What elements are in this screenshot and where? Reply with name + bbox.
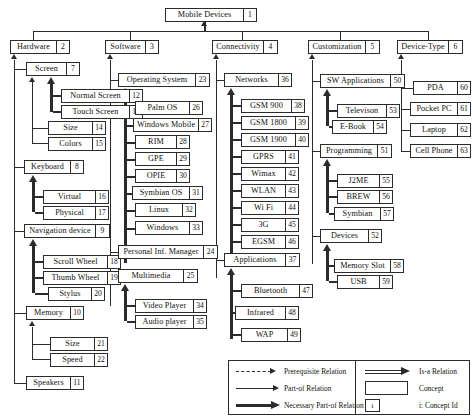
node-id: 58	[390, 260, 403, 272]
node-egsm[interactable]: EGSM 46	[241, 235, 299, 249]
node-infrared[interactable]: Infrared 48	[235, 306, 299, 320]
node-televison[interactable]: Televison 53	[337, 104, 400, 118]
spine-operating-system	[124, 95, 127, 263]
node-memory-size[interactable]: Size 21	[50, 337, 108, 351]
node-memory-speed[interactable]: Speed 22	[50, 353, 108, 367]
node-windows-mobile[interactable]: Windows Mobile 27	[133, 118, 212, 132]
node-pocket-pc[interactable]: Pocket PC 61	[410, 102, 471, 116]
stub-televison	[329, 110, 337, 112]
node-symbian-os[interactable]: Symbian OS 31	[132, 186, 203, 200]
node-screen[interactable]: Screen 7	[26, 62, 80, 76]
node-stylus[interactable]: Stylus 20	[48, 287, 105, 301]
arrowhead-keyboard	[29, 175, 37, 182]
node-memory[interactable]: Memory 10	[26, 306, 84, 320]
node-hardware[interactable]: Hardware 2	[10, 40, 70, 54]
node-label: Speakers	[27, 377, 70, 389]
node-label: GSM 1900	[242, 134, 295, 146]
node-laptop[interactable]: Laptop 62	[410, 123, 471, 137]
node-id: 56	[379, 191, 392, 203]
node-personal-inf-manager[interactable]: Personal Inf. Manager 24	[118, 245, 218, 259]
node-cell-phone[interactable]: Cell Phone 63	[410, 144, 471, 158]
spine-screen-thin	[32, 82, 33, 143]
node-physical[interactable]: Physical 17	[43, 206, 109, 220]
node-scroll-wheel[interactable]: Scroll Wheel 18	[43, 255, 121, 269]
node-wimax[interactable]: Wimax 42	[241, 167, 299, 181]
node-normal-screen[interactable]: Normal Screen 12	[61, 89, 143, 103]
node-memory-slot[interactable]: Memory Slot 58	[334, 259, 404, 273]
node-navigation-device[interactable]: Navigation device 9	[24, 224, 110, 238]
spine-screen-thick	[50, 84, 53, 112]
arrowhead-screen-thin	[29, 77, 35, 82]
node-applications[interactable]: Applications 37	[224, 253, 300, 267]
node-sw-applications[interactable]: SW Applications 50	[320, 74, 405, 88]
arrowhead-memory	[29, 321, 35, 326]
node-label: Windows Mobile	[134, 119, 198, 131]
node-gpe[interactable]: GPE 29	[135, 152, 190, 166]
node-keyboard[interactable]: Keyboard 8	[24, 160, 84, 174]
node-linux[interactable]: Linux 32	[135, 203, 196, 217]
node-connectivity[interactable]: Connectivity 4	[212, 40, 278, 54]
node-label: Programming	[321, 145, 377, 157]
node-brew[interactable]: BREW 56	[337, 190, 393, 204]
node-usb[interactable]: USB 59	[337, 275, 393, 289]
node-windows[interactable]: Windows 33	[135, 221, 203, 235]
node-gsm-1800[interactable]: GSM 1800 39	[241, 116, 309, 130]
edge-top-bus	[33, 31, 428, 32]
node-j2me[interactable]: J2ME 55	[337, 174, 393, 188]
node-id: 26	[189, 102, 202, 114]
node-video-player[interactable]: Video Player 34	[135, 299, 207, 313]
stub-memory-size	[32, 344, 50, 345]
arrowhead-software	[107, 54, 113, 59]
node-programming[interactable]: Programming 51	[320, 144, 392, 158]
stub-sw-applications	[312, 81, 320, 82]
node-customization[interactable]: Customization 5	[308, 40, 380, 54]
node-gsm-1900[interactable]: GSM 1900 40	[241, 133, 309, 147]
edge-bus-drop-software	[130, 31, 131, 40]
necessary-part-of-arrow-icon	[271, 401, 280, 409]
node-3g[interactable]: 3G 45	[241, 218, 299, 232]
node-wap[interactable]: WAP 49	[241, 328, 301, 342]
legend-label-part-of: Part-of Relation	[284, 385, 331, 392]
node-pda[interactable]: PDA 60	[413, 81, 471, 95]
node-bluetooth[interactable]: Bluetooth 47	[241, 284, 313, 298]
node-wlan[interactable]: WLAN 43	[241, 184, 299, 198]
node-mobile-devices[interactable]: Mobile Devices 1	[165, 8, 257, 22]
node-label: Software	[106, 41, 145, 53]
node-virtual[interactable]: Virtual 16	[43, 190, 109, 204]
node-networks[interactable]: Networks 36	[224, 73, 292, 87]
node-devices[interactable]: Devices 52	[320, 229, 382, 243]
node-label: Laptop	[411, 124, 457, 136]
node-screen-colors[interactable]: Colors 15	[48, 137, 106, 151]
stub-3g	[233, 224, 241, 226]
node-thumb-wheel[interactable]: Thumb Wheel 19	[43, 271, 121, 285]
node-label: Windows	[136, 222, 189, 234]
stub-video-player	[127, 305, 135, 307]
stub-usb	[329, 281, 337, 283]
node-id: 3	[145, 41, 158, 53]
node-opie[interactable]: OPIE 30	[135, 169, 190, 183]
node-multimedia[interactable]: Multimedia 25	[118, 269, 198, 283]
stub-j2me	[329, 180, 337, 182]
node-label: Speed	[51, 354, 94, 366]
node-operating-system[interactable]: Operating System 23	[118, 73, 210, 87]
node-gprs[interactable]: GPRS 41	[241, 150, 299, 164]
node-label: Mobile Devices	[166, 9, 243, 21]
node-label: PDA	[414, 82, 457, 94]
stub-programming	[312, 151, 320, 152]
stub-opie	[127, 176, 135, 178]
node-id: 10	[70, 307, 83, 319]
node-touch-screen[interactable]: Touch Screen 13	[61, 105, 143, 119]
node-palm-os[interactable]: Palm OS 26	[135, 101, 203, 115]
stub-windows	[127, 228, 135, 230]
node-wi-fi[interactable]: Wi Fi 44	[241, 201, 299, 215]
node-gsm-900[interactable]: GSM 900 38	[241, 99, 305, 113]
node-audio-player[interactable]: Audio player 35	[135, 315, 207, 329]
node-symbian[interactable]: Symbian 57	[334, 207, 394, 221]
node-screen-size[interactable]: Size 14	[48, 121, 106, 135]
node-rim[interactable]: RIM 28	[135, 135, 190, 149]
node-speakers[interactable]: Speakers 11	[26, 376, 84, 390]
node-e-book[interactable]: E-Book 54	[332, 120, 387, 134]
node-device-type[interactable]: Device-Type 6	[397, 40, 463, 54]
arrowhead-customization	[309, 54, 315, 59]
node-software[interactable]: Software 3	[105, 40, 159, 54]
